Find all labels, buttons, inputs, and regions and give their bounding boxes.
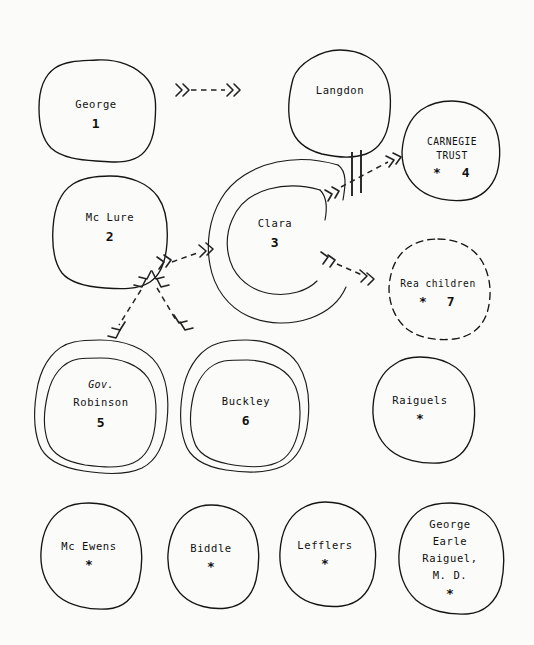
node-raiguels-name: Raiguels xyxy=(392,394,447,406)
node-biddle[interactable]: Biddle * xyxy=(168,505,259,609)
node-mc-ewens-name: Mc Ewens xyxy=(61,540,116,552)
node-george-number: 1 xyxy=(92,116,100,131)
edge-mc-lure-to-clara xyxy=(157,243,213,269)
node-carnegie-trust-number: 4 xyxy=(462,165,470,180)
node-gov-robinson[interactable]: Gov. Robinson 5 xyxy=(35,340,168,474)
node-rea-children-name: Rea children xyxy=(400,278,475,289)
node-carnegie-trust-star: * xyxy=(433,165,441,180)
node-biddle-name: Biddle xyxy=(190,542,232,554)
node-raiguels-star: * xyxy=(416,411,424,426)
node-lefflers[interactable]: Lefflers * xyxy=(280,502,376,607)
node-mc-lure-number: 2 xyxy=(106,229,114,244)
edge-mc-lure-to-buckley xyxy=(152,271,193,330)
node-george-earle-raiguel-line4: M. D. xyxy=(433,569,468,581)
node-george-earle-raiguel[interactable]: George Earle Raiguel, M. D. * xyxy=(399,503,504,614)
node-carnegie-trust-name-line2: TRUST xyxy=(436,150,467,161)
node-lefflers-outline xyxy=(280,502,376,607)
node-george-earle-raiguel-line3: Raiguel, xyxy=(422,552,477,564)
node-clara-inner-outline-right xyxy=(320,190,326,220)
node-raiguels[interactable]: Raiguels * xyxy=(373,357,475,463)
node-george-earle-raiguel-line2: Earle xyxy=(433,535,468,547)
node-carnegie-trust-name-line1: CARNEGIE xyxy=(427,136,477,147)
node-rea-children-number: 7 xyxy=(447,294,455,309)
node-mc-lure-name: Mc Lure xyxy=(86,211,134,223)
influence-diagram: George 1 Langdon CARNEGIE TRUST * 4 Mc L… xyxy=(0,0,534,645)
node-rea-children-star: * xyxy=(419,294,427,309)
node-george[interactable]: George 1 xyxy=(39,60,156,162)
node-lefflers-name: Lefflers xyxy=(297,539,352,551)
node-buckley-number: 6 xyxy=(242,413,250,428)
node-gov-robinson-name: Robinson xyxy=(73,396,128,408)
node-mc-ewens-star: * xyxy=(85,557,93,572)
node-biddle-outline xyxy=(168,505,259,609)
edge-clara-to-carnegie-trust xyxy=(325,150,401,201)
node-gov-robinson-number: 5 xyxy=(97,415,105,430)
node-clara[interactable]: Clara 3 xyxy=(208,160,346,323)
diagram-canvas: George 1 Langdon CARNEGIE TRUST * 4 Mc L… xyxy=(0,0,534,645)
node-clara-number: 3 xyxy=(271,235,279,250)
node-george-name: George xyxy=(75,98,117,110)
node-rea-children-outline xyxy=(389,239,490,340)
node-rea-children[interactable]: Rea children * 7 xyxy=(389,239,490,340)
node-buckley-name: Buckley xyxy=(222,395,270,407)
edge-mc-lure-to-gov-robinson xyxy=(108,271,151,338)
node-langdon[interactable]: Langdon xyxy=(289,50,391,157)
node-langdon-outline xyxy=(289,50,391,157)
node-biddle-star: * xyxy=(207,559,215,574)
node-langdon-name: Langdon xyxy=(316,84,364,96)
node-george-earle-raiguel-star: * xyxy=(446,586,454,601)
node-buckley[interactable]: Buckley 6 xyxy=(181,340,309,472)
edge-clara-to-rea-children xyxy=(321,252,374,285)
node-george-earle-raiguel-line1: George xyxy=(429,518,471,530)
node-clara-outer-outline-right xyxy=(338,165,345,200)
node-mc-ewens[interactable]: Mc Ewens * xyxy=(41,503,142,609)
node-george-outline xyxy=(39,60,156,162)
node-carnegie-trust[interactable]: CARNEGIE TRUST * 4 xyxy=(402,101,500,201)
node-clara-name: Clara xyxy=(258,217,293,229)
edge-george-to-langdon xyxy=(176,84,240,96)
node-gov-robinson-inner-outline xyxy=(45,358,156,467)
node-gov-robinson-title: Gov. xyxy=(88,379,114,390)
node-lefflers-star: * xyxy=(321,556,329,571)
